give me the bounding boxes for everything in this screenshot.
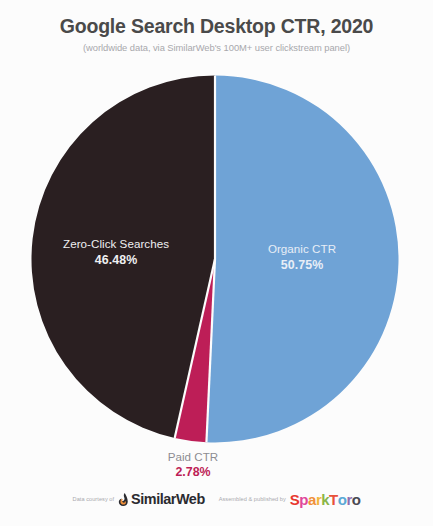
pie-slice-group — [31, 76, 398, 443]
pie-slice-organic-ctr — [206, 76, 398, 443]
published-by-label: Assembled & published by — [219, 496, 286, 502]
sparktoro-letter: p — [299, 491, 308, 508]
sparktoro-letter: T — [329, 491, 338, 508]
similarweb-attribution: Data courtesy of SimilarWeb — [73, 491, 205, 507]
slice-label-paid-ctr: Paid CTR 2.78% — [118, 450, 268, 481]
pie-chart — [31, 75, 399, 443]
pie-chart-svg — [31, 75, 399, 443]
sparktoro-letter: k — [321, 491, 329, 508]
sparktoro-letter: o — [352, 491, 361, 508]
slice-value-paid-ctr: 2.78% — [118, 465, 268, 481]
sparktoro-letter: a — [308, 491, 316, 508]
sparktoro-letter: S — [290, 491, 300, 508]
sparktoro-logo: SparkToro — [290, 491, 361, 508]
slice-name-paid-ctr: Paid CTR — [118, 450, 268, 464]
footer-attribution: Data courtesy of SimilarWeb Assembled & … — [0, 487, 433, 511]
page-title: Google Search Desktop CTR, 2020 — [0, 14, 433, 38]
chart-card: Google Search Desktop CTR, 2020 (worldwi… — [0, 0, 433, 526]
sparktoro-letter: o — [338, 491, 347, 508]
sparktoro-attribution: Assembled & published by SparkToro — [219, 491, 361, 508]
similarweb-flame-icon — [118, 493, 129, 506]
chart-header: Google Search Desktop CTR, 2020 (worldwi… — [0, 14, 433, 55]
chart-subtitle: (worldwide data, via SimilarWeb's 100M+ … — [0, 41, 433, 55]
data-courtesy-label: Data courtesy of — [73, 496, 115, 502]
similarweb-wordmark: SimilarWeb — [131, 491, 205, 507]
similarweb-logo: SimilarWeb — [118, 491, 205, 507]
